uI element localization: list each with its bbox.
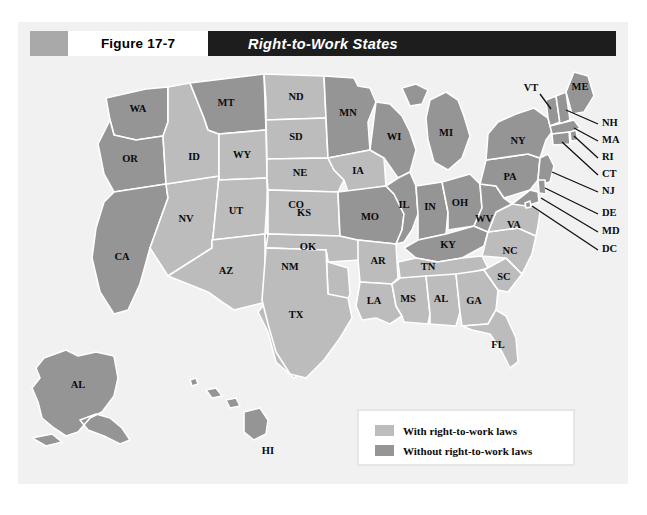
state-label-ms: MS xyxy=(400,293,416,304)
state-label-or: OR xyxy=(122,153,138,164)
state-ny[interactable] xyxy=(486,108,552,160)
figure-title: Right-to-Work States xyxy=(208,31,616,56)
legend-swatch-without-icon xyxy=(375,445,394,456)
state-label-sd: SD xyxy=(289,131,303,142)
figure-page: Figure 17-7 Right-to-Work States xyxy=(0,0,647,515)
callout-label-md: MD xyxy=(602,225,620,236)
state-label-mt: MT xyxy=(218,97,235,108)
callout-line-de xyxy=(545,188,598,214)
state-label-mo: MO xyxy=(361,211,379,222)
state-hi[interactable] xyxy=(190,378,268,440)
legend-row-without: Without right-to-work laws xyxy=(375,442,573,459)
state-label-ne: NE xyxy=(293,167,308,178)
callout-line-md xyxy=(541,198,598,232)
state-label-nc: NC xyxy=(502,245,517,256)
state-me[interactable] xyxy=(566,72,594,114)
callout-label-de: DE xyxy=(602,207,617,218)
state-dc[interactable] xyxy=(525,201,531,208)
callout-label-nh: NH xyxy=(602,117,618,128)
state-label-wa: WA xyxy=(130,103,147,114)
state-label-ok: OK xyxy=(300,241,317,252)
state-label-ny: NY xyxy=(510,135,526,146)
state-label-me: ME xyxy=(572,81,589,92)
legend-row-with: With right-to-work laws xyxy=(375,422,573,439)
state-label-in: IN xyxy=(424,201,436,212)
figure-header: Figure 17-7 Right-to-Work States xyxy=(30,31,616,56)
legend-swatch-with-icon xyxy=(375,425,394,436)
state-label-az: AZ xyxy=(219,265,234,276)
state-label-sc: SC xyxy=(497,271,510,282)
state-ak[interactable] xyxy=(32,350,130,446)
state-label-va: VA xyxy=(507,219,521,230)
state-label-mn: MN xyxy=(339,107,357,118)
state-label-hi: HI xyxy=(262,445,274,456)
legend-label-with: With right-to-work laws xyxy=(403,425,517,437)
state-label-fl: FL xyxy=(491,339,504,350)
state-label-ca: CA xyxy=(114,251,130,262)
state-label-wy: WY xyxy=(233,149,252,160)
state-label-oh: OH xyxy=(452,197,468,208)
state-label-vt: VT xyxy=(524,82,539,93)
state-label-nv: NV xyxy=(178,213,194,224)
state-de[interactable] xyxy=(538,180,546,194)
state-label-ky: KY xyxy=(440,239,456,250)
callout-label-nj: NJ xyxy=(602,185,615,196)
state-label-tn: TN xyxy=(421,261,436,272)
state-label-ut: UT xyxy=(229,205,244,216)
state-label-pa: PA xyxy=(503,171,517,182)
callout-line-nj xyxy=(552,172,598,192)
callout-line-ct xyxy=(562,142,598,175)
state-label-nm: NM xyxy=(281,261,299,272)
state-label-ks: KS xyxy=(297,207,311,218)
callout-label-ct: CT xyxy=(602,168,617,179)
callout-label-dc: DC xyxy=(602,243,617,254)
state-label-ia: IA xyxy=(352,165,364,176)
state-label-wv: WV xyxy=(475,213,494,224)
legend-label-without: Without right-to-work laws xyxy=(403,445,532,457)
state-label-la: LA xyxy=(367,295,382,306)
figure-number-label: Figure 17-7 xyxy=(68,31,208,56)
state-label-tx: TX xyxy=(289,309,304,320)
map-legend: With right-to-work laws Without right-to… xyxy=(357,409,575,466)
state-label-nd: ND xyxy=(288,91,304,102)
header-gray-block xyxy=(30,31,68,56)
state-label-wi: WI xyxy=(387,131,402,142)
callout-label-ri: RI xyxy=(602,151,614,162)
state-label-ar: AR xyxy=(370,255,386,266)
state-label-id: ID xyxy=(188,151,200,162)
state-label-al: AL xyxy=(434,293,449,304)
callout-label-ma: MA xyxy=(602,134,620,145)
state-label-ga: GA xyxy=(466,295,482,306)
state-label-mi: MI xyxy=(439,127,453,138)
state-ct[interactable] xyxy=(552,132,570,145)
state-label-il: IL xyxy=(398,199,409,210)
state-label-ak: AL xyxy=(71,379,86,390)
